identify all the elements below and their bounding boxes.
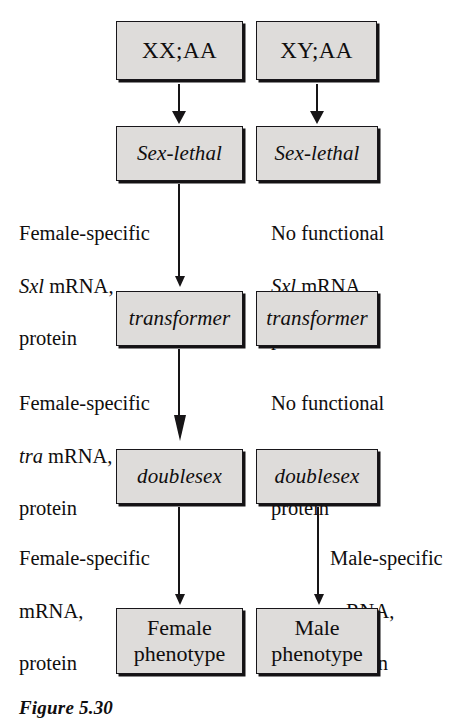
node-male-karyotype-label: XY;AA bbox=[276, 38, 357, 64]
node-female-sex-lethal: Sex-lethal bbox=[116, 126, 243, 181]
arrow-shaft bbox=[178, 184, 180, 278]
figure-caption: Figure 5.30 bbox=[19, 697, 113, 719]
node-female-phenotype: Female phenotype bbox=[116, 608, 243, 674]
arrow-head bbox=[314, 594, 324, 605]
node-male-phenotype: Male phenotype bbox=[256, 608, 378, 674]
figure-sex-determination-pathway: XX;AA XY;AA Sex-lethal Sex-lethal Female… bbox=[0, 0, 472, 725]
node-male-doublesex-label: doublesex bbox=[271, 465, 364, 489]
arrow-head bbox=[175, 276, 185, 287]
annotation-line-1: Male-specific bbox=[330, 545, 470, 571]
node-male-transformer: transformer bbox=[256, 291, 378, 346]
node-male-karyotype: XY;AA bbox=[256, 21, 377, 80]
node-female-karyotype: XX;AA bbox=[116, 21, 243, 80]
arrow-head bbox=[174, 415, 186, 441]
annotation-line-1: Female-specific bbox=[19, 390, 164, 416]
annotation-line-1: Female-specific bbox=[19, 220, 164, 246]
node-male-sex-lethal: Sex-lethal bbox=[256, 126, 378, 181]
node-male-sex-lethal-label: Sex-lethal bbox=[271, 142, 364, 166]
annotation-female-sxl-product: Female-specific Sxl mRNA, protein bbox=[19, 194, 164, 378]
annotation-line-1: Female-specific bbox=[19, 545, 164, 571]
node-female-doublesex: doublesex bbox=[116, 449, 243, 504]
arrow-shaft bbox=[178, 349, 180, 417]
arrow-shaft bbox=[316, 84, 318, 112]
node-male-phenotype-label: Male phenotype bbox=[267, 615, 367, 667]
node-male-doublesex: doublesex bbox=[256, 449, 378, 504]
node-female-phenotype-label: Female phenotype bbox=[130, 615, 230, 667]
node-male-transformer-label: transformer bbox=[262, 307, 371, 331]
arrow-shaft bbox=[178, 84, 180, 112]
node-female-doublesex-label: doublesex bbox=[133, 465, 226, 489]
arrow-male-karyotype-to-sxl bbox=[308, 84, 326, 124]
arrow-shaft bbox=[178, 507, 180, 596]
arrow-female-sxl-to-transformer bbox=[171, 184, 189, 289]
annotation-line-2-rest: mRNA, bbox=[44, 275, 113, 297]
gene-name-sxl: Sxl bbox=[19, 275, 44, 297]
gene-name-tra: tra bbox=[19, 445, 43, 467]
node-female-karyotype-label: XX;AA bbox=[138, 38, 221, 64]
arrow-head bbox=[175, 594, 185, 605]
arrow-female-karyotype-to-sxl bbox=[170, 84, 188, 124]
arrow-head bbox=[172, 111, 186, 124]
arrow-female-transformer-to-doublesex bbox=[171, 349, 189, 449]
annotation-line-2-rest: mRNA, bbox=[43, 445, 112, 467]
annotation-male-sxl-product: No functional Sxl mRNA, protein bbox=[271, 194, 431, 378]
annotation-line-1: No functional bbox=[271, 220, 431, 246]
arrow-female-doublesex-to-phenotype bbox=[171, 507, 189, 607]
node-female-transformer: transformer bbox=[116, 291, 243, 346]
annotation-line-1: No functional bbox=[271, 390, 431, 416]
node-female-sex-lethal-label: Sex-lethal bbox=[133, 142, 226, 166]
node-female-transformer-label: transformer bbox=[125, 307, 234, 331]
arrow-head bbox=[310, 111, 324, 124]
